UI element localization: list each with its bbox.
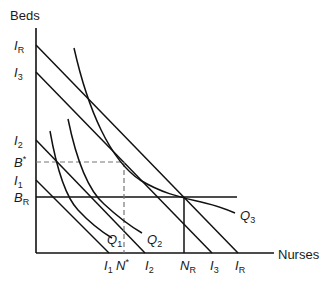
isoquant-label-q3: Q3: [240, 208, 255, 225]
x-tick-nr: NR: [180, 258, 196, 275]
isocost-line-i1: [36, 180, 109, 253]
x-axis-label: Nurses: [278, 247, 320, 262]
isocost-line-ir: [36, 45, 238, 253]
y-tick-i3: I3: [14, 65, 23, 82]
isoquant-label-q1: Q1: [107, 232, 122, 249]
x-tick-i3: I3: [210, 258, 219, 275]
isoquant-diagram: Beds Nurses IR I3 I2 B* I1 BR I1 N* I2 N…: [0, 0, 330, 287]
y-tick-ir: IR: [14, 38, 25, 55]
x-tick-n-star: N*: [116, 257, 129, 273]
y-axis-label: Beds: [10, 8, 40, 23]
x-tick-ir: IR: [235, 258, 246, 275]
y-tick-i1: I1: [14, 173, 23, 190]
isoquant-label-q2: Q2: [147, 232, 162, 249]
y-tick-i2: I2: [14, 133, 23, 150]
isoquant-q1: [50, 131, 112, 238]
x-tick-i1: I1: [104, 258, 113, 275]
y-tick-br: BR: [14, 190, 30, 207]
y-tick-b-star: B*: [14, 154, 27, 170]
x-tick-i2: I2: [145, 258, 154, 275]
isoquant-q3: [74, 48, 235, 213]
